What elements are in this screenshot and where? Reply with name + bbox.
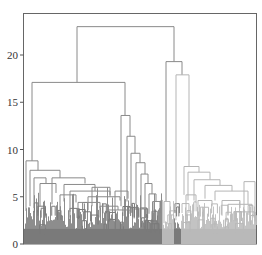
y-tick-label: 5	[13, 191, 19, 203]
y-tick-label: 15	[7, 96, 19, 108]
y-axis: 05101520	[7, 49, 24, 250]
dendrogram-chart: 05101520	[0, 0, 262, 255]
y-tick-label: 10	[7, 144, 19, 156]
y-tick-label: 0	[13, 238, 19, 250]
y-tick-label: 20	[7, 49, 19, 61]
